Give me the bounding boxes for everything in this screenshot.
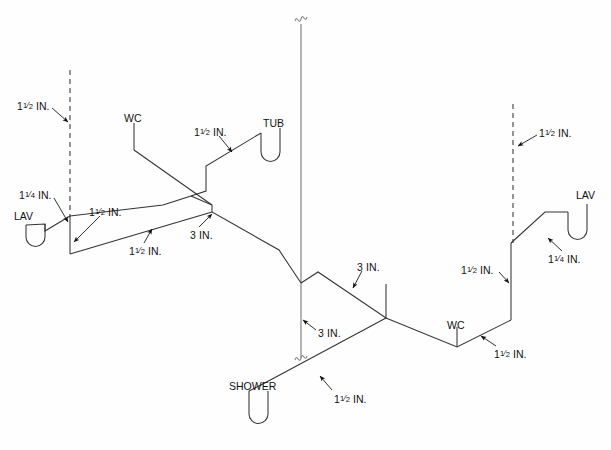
leader-tub-arm [219,136,232,152]
size-callout-vent-left-top: 11⁄2 IN. [17,101,50,112]
plumbing-isometric-diagram: LAV WC TUB LAV WC SHOWER 11⁄2 IN. 11⁄4 I… [0,0,611,450]
leader-wc-right-arm [481,336,496,346]
size-callout-lav-right-arm: 11⁄4 IN. [548,254,581,265]
size-callout-wc-right-arm: 11⁄2 IN. [494,349,527,360]
size-callout-shower-arm: 11⁄2 IN. [334,394,367,405]
size-callout-vent-right-top: 11⁄2 IN. [539,128,572,139]
right-lav-group [511,204,587,243]
right-wc-group [386,278,511,347]
main-right-3in-run [301,272,386,318]
fixture-label-lav-right: LAV [576,190,595,201]
center-stack-group [295,17,307,361]
leader-branch-right-3in [353,271,362,288]
size-callout-branch-right-3in: 3 IN. [357,262,380,273]
main-right-3in-group [301,272,386,318]
leader-shower-arm [320,376,332,390]
shower-trap [249,391,268,424]
tub-group [191,128,280,196]
leader-branch-right-up [499,272,509,283]
leader-lav-right-arm [548,238,562,251]
left-wc-arm [134,150,212,205]
isometric-riser-drawing [0,0,611,450]
leader-vent-right-top [518,135,537,146]
size-callout-tub-arm: 11⁄2 IN. [194,127,227,138]
leader-branch-left-up [74,216,100,242]
tub-trap [261,128,280,162]
fixture-label-wc-left: WC [124,113,142,124]
leader-branch-left-3in [199,214,212,227]
size-callout-stack-3in: 3 IN. [318,328,341,339]
right-lav-trap [568,204,587,240]
leader-vent-left-top [52,108,68,122]
leader-lav-left-arm [54,198,68,222]
leader-stack-3in [303,320,316,330]
break-symbol-bottom [295,356,307,361]
right-vent-group [511,104,513,278]
left-lav-trap [26,224,45,247]
fixture-label-shower: SHOWER [229,381,276,392]
size-callout-branch-left-up: 11⁄2 IN. [89,207,122,218]
fixture-label-wc-right: WC [447,320,465,331]
tub-arm [191,133,261,196]
size-callout-branch-left-3in: 3 IN. [190,230,213,241]
fixture-label-tub: TUB [263,118,284,129]
right-lav-arm [511,212,568,243]
fixture-label-lav-left: LAV [14,211,33,222]
size-callout-lav-left-arm: 11⁄4 IN. [19,190,52,201]
break-symbol-top [295,17,307,22]
size-callout-branch-left-low: 11⁄2 IN. [129,246,162,257]
size-callout-branch-right-up: 11⁄2 IN. [461,265,494,276]
